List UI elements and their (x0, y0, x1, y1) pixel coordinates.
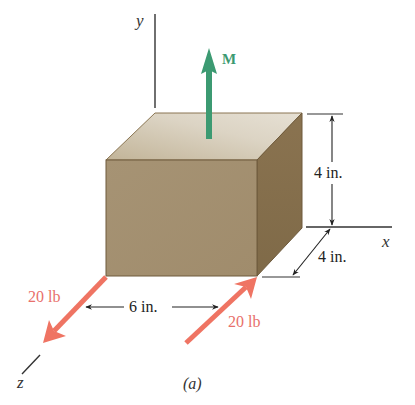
depth-dimension-label: 4 in. (318, 249, 346, 265)
width-dimension-label: 6 in. (129, 299, 157, 315)
block-front-face (106, 160, 257, 276)
force-right-label: 20 lb (228, 314, 260, 330)
x-axis-label: x (382, 233, 390, 250)
force-left-shaft (54, 277, 106, 331)
block-couple-diagram: y x z M 4 in. 4 in. 6 in. 20 lb 20 lb (a… (0, 0, 415, 405)
y-axis-label: y (136, 12, 144, 29)
height-dimension-label: 4 in. (314, 165, 342, 181)
diagram-canvas (0, 0, 415, 405)
z-axis-label: z (17, 374, 24, 391)
z-axis-line (22, 355, 40, 374)
moment-label: M (222, 52, 236, 67)
force-left-label: 20 lb (28, 289, 60, 305)
figure-caption: (a) (183, 376, 202, 392)
